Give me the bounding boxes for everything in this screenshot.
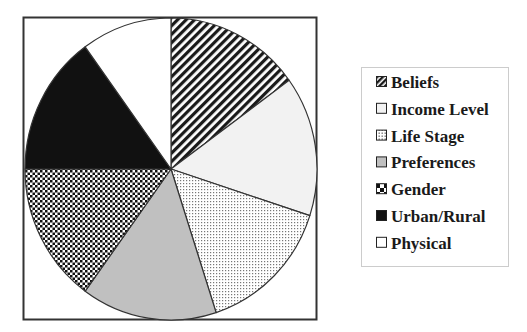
legend-swatch-beliefs-icon (377, 77, 387, 87)
legend-swatch-income-level-icon (377, 103, 387, 113)
pie-slices (25, 18, 317, 320)
legend-item-preferences: Preferences (377, 153, 476, 172)
legend-label: Gender (391, 180, 446, 199)
legend-swatch-preferences-icon (377, 157, 387, 167)
legend-swatch-physical-icon (377, 237, 387, 247)
legend-label: Physical (391, 234, 452, 253)
legend-item-income-level: Income Level (377, 100, 490, 119)
legend: BeliefsIncome LevelLife StagePreferences… (362, 68, 509, 267)
legend-label: Urban/Rural (391, 207, 486, 226)
legend-label: Beliefs (391, 73, 440, 92)
legend-swatch-urban-rural-icon (377, 211, 387, 221)
legend-label: Preferences (391, 153, 476, 172)
legend-label: Income Level (391, 100, 489, 119)
legend-swatch-gender-icon (377, 184, 387, 194)
legend-item-urban-rural: Urban/Rural (377, 207, 486, 226)
legend-label: Life Stage (391, 127, 465, 146)
legend-swatch-life-stage-icon (377, 130, 387, 140)
pie-chart: BeliefsIncome LevelLife StagePreferences… (0, 0, 527, 332)
